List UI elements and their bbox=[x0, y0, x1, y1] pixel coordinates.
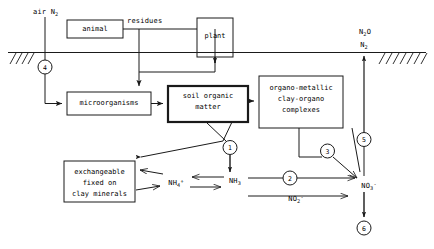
nh3-subscript: 3 bbox=[238, 180, 241, 186]
node-2-label: 2 bbox=[288, 175, 292, 183]
exchangeable-line-1: exchangeable bbox=[64, 167, 135, 178]
flow-soil-organic-to-node1 bbox=[207, 123, 226, 141]
label-residues: residues bbox=[127, 17, 162, 26]
node-5-label: 5 bbox=[362, 136, 366, 144]
exchangeable-line-2: fixed on bbox=[64, 178, 135, 189]
label-air-n2: air N2 bbox=[33, 8, 58, 19]
nh4-superscript: + bbox=[180, 178, 183, 184]
box-label-organo-metallic: organo-metallic clay-organo complexes bbox=[259, 83, 343, 116]
organo-metallic-line-1: organo-metallic bbox=[259, 83, 343, 94]
label-n2: N2 bbox=[360, 41, 368, 52]
label-n2o: N2O bbox=[359, 28, 371, 39]
box-label-animal: animal bbox=[67, 24, 123, 35]
node-4-label: 4 bbox=[43, 64, 47, 72]
n2o-subscript: 2 bbox=[363, 31, 366, 37]
label-nh4: NH4+ bbox=[168, 177, 184, 190]
flow-nh4-to-exchangeable bbox=[140, 170, 163, 174]
no2-superscript: - bbox=[300, 194, 303, 200]
soil-organic-matter-line-2: matter bbox=[168, 102, 248, 113]
box-label-microorganisms: microorganisms bbox=[67, 98, 151, 109]
organo-metallic-line-3: complexes bbox=[259, 105, 343, 116]
label-nh3: NH3 bbox=[229, 177, 241, 188]
organo-metallic-line-2: clay-organo bbox=[259, 94, 343, 105]
flow-organo-metallic-to-node3 bbox=[299, 128, 322, 157]
label-no3: NO3- bbox=[361, 180, 377, 193]
n2-subscript: 2 bbox=[365, 44, 368, 50]
box-label-soil-organic-matter: soil organic matter bbox=[168, 91, 248, 113]
flow-node4-to-microorganisms bbox=[45, 74, 62, 104]
node-1-label: 1 bbox=[228, 144, 232, 152]
node-3-label: 3 bbox=[326, 148, 330, 156]
flow-soil-organic-to-node3-path bbox=[141, 122, 232, 157]
ground-hatching-left bbox=[10, 53, 34, 64]
nitrogen-cycle-diagram: air N2 residues N2O N2 animal plant micr… bbox=[0, 0, 434, 249]
flow-node3-to-no3 bbox=[333, 157, 357, 178]
ground-hatching-right bbox=[379, 53, 427, 64]
label-no2: NO2- bbox=[288, 193, 304, 206]
node-6-label: 6 bbox=[362, 225, 366, 233]
box-label-exchangeable: exchangeable fixed on clay minerals bbox=[64, 167, 135, 200]
exchangeable-line-3: clay minerals bbox=[64, 189, 135, 200]
box-label-plant: plant bbox=[197, 31, 233, 42]
air-n2-subscript: 2 bbox=[55, 11, 58, 17]
no3-superscript: - bbox=[373, 181, 376, 187]
soil-organic-matter-line-1: soil organic bbox=[168, 91, 248, 102]
flow-exchangeable-to-nh4 bbox=[136, 186, 160, 190]
